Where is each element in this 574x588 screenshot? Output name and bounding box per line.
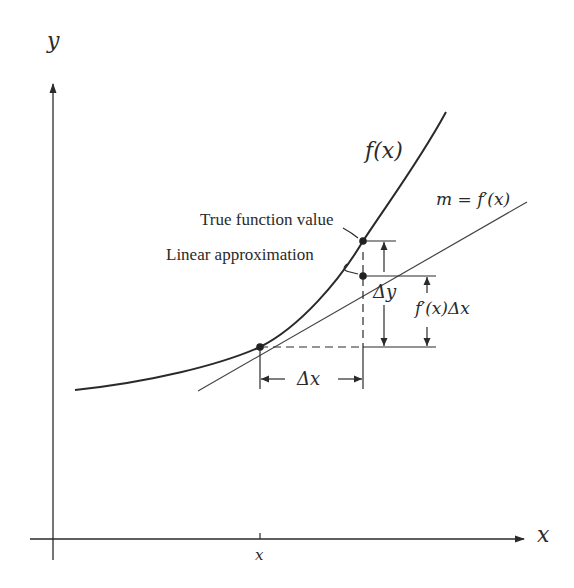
linear-approx-label: Linear approximation	[166, 245, 314, 265]
curve-label: f(x)	[365, 138, 403, 163]
linear-approx-leader	[344, 264, 358, 274]
tangent-label: m = f′(x)	[436, 189, 510, 209]
delta-x-label: Δx	[297, 368, 320, 389]
delta-y-label: Δy	[373, 281, 396, 302]
x-tick-label: x	[255, 546, 263, 564]
x-axis-label: x	[537, 522, 549, 547]
true-value-leader	[343, 228, 358, 238]
diagram-canvas	[0, 0, 574, 588]
fprime-dx-label: f′(x)Δx	[415, 298, 470, 318]
y-axis-label: y	[47, 28, 59, 53]
true-value-label: True function value	[200, 210, 333, 230]
approx-value-point	[359, 272, 367, 280]
base-point	[256, 343, 264, 351]
true-value-point	[359, 237, 367, 245]
